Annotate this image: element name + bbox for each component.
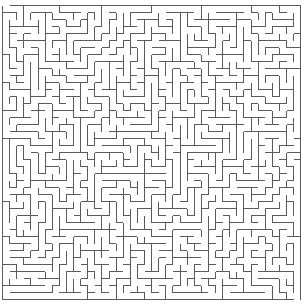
maze-grid [0,0,308,306]
